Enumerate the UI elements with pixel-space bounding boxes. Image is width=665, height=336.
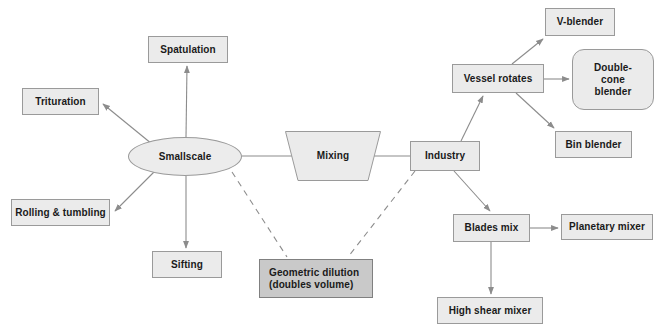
edge-industry-to-vessel-rotates (461, 96, 483, 141)
node-bin-blender[interactable]: Bin blender (555, 131, 632, 158)
edge-vessel-rotates-to-bin-blender (516, 93, 554, 128)
node-planetary-mixer[interactable]: Planetary mixer (561, 214, 653, 240)
node-mixing[interactable]: Mixing (285, 131, 381, 181)
node-spatulation-label: Spatulation (157, 44, 219, 56)
node-trituration[interactable]: Trituration (22, 88, 99, 115)
node-v-blender[interactable]: V-blender (545, 8, 615, 36)
edge-industry-to-geometric-dilution (348, 171, 415, 257)
node-rolling-tumbling-label: Rolling & tumbling (12, 207, 109, 219)
node-sifting-label: Sifting (168, 259, 206, 271)
edge-smallscale-to-trituration (103, 104, 152, 144)
node-v-blender-label: V-blender (554, 16, 606, 28)
node-high-shear-mixer[interactable]: High shear mixer (437, 297, 543, 324)
node-industry[interactable]: Industry (410, 141, 480, 171)
node-industry-label: Industry (422, 150, 468, 162)
node-double-cone-blender[interactable]: Double- cone blender (572, 49, 654, 110)
node-rolling-tumbling[interactable]: Rolling & tumbling (11, 199, 110, 226)
node-smallscale-label: Smallscale (156, 151, 215, 163)
node-smallscale[interactable]: Smallscale (128, 137, 242, 176)
node-spatulation[interactable]: Spatulation (148, 36, 228, 63)
node-vessel-rotates-label: Vessel rotates (461, 73, 536, 85)
node-sifting[interactable]: Sifting (152, 251, 222, 278)
node-blades-mix-label: Blades mix (462, 222, 522, 234)
edge-smallscale-to-spatulation (186, 66, 187, 137)
node-vessel-rotates[interactable]: Vessel rotates (452, 64, 544, 93)
edge-smallscale-to-rolling-tumbling (115, 170, 156, 211)
node-bin-blender-label: Bin blender (562, 139, 624, 151)
node-geometric-dilution[interactable]: Geometric dilution (doubles volume) (259, 259, 373, 298)
node-planetary-mixer-label: Planetary mixer (566, 221, 648, 233)
node-geometric-dilution-label: Geometric dilution (doubles volume) (260, 267, 362, 291)
node-trituration-label: Trituration (32, 96, 89, 108)
node-high-shear-mixer-label: High shear mixer (446, 305, 535, 317)
edge-vessel-rotates-to-v-blender (512, 39, 543, 64)
node-blades-mix[interactable]: Blades mix (453, 214, 530, 242)
node-mixing-label: Mixing (314, 150, 352, 162)
edge-industry-to-blades-mix (454, 171, 490, 211)
diagram-canvas: Spatulation Trituration Smallscale Rolli… (0, 0, 665, 336)
node-double-cone-blender-label: Double- cone blender (591, 62, 635, 98)
edge-smallscale-to-geometric-dilution (232, 172, 287, 257)
